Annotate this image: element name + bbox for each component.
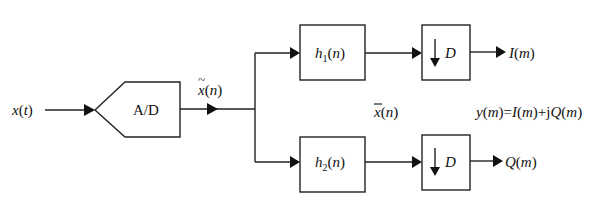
q-output-label: Q(m) <box>505 154 537 171</box>
i-output-arrow-icon <box>496 46 506 58</box>
sampled-arrow-icon <box>207 103 218 115</box>
d1-input-arrow-icon <box>412 47 422 59</box>
i-output-label: I(m) <box>508 45 535 62</box>
filtered-signal-label: x(n) <box>373 104 398 121</box>
decimator-1-factor: D <box>444 45 456 61</box>
h1-input-arrow-icon <box>290 47 300 59</box>
tilde-accent: ~ <box>198 72 205 87</box>
q-output-arrow-icon <box>493 155 503 167</box>
output-equation: y(m)=I(m)+jQ(m) <box>474 104 582 121</box>
block-diagram: x(t) A/D x(n) ~ h1(n) h2(n) D D I(m) Q(m… <box>0 0 613 202</box>
input-signal-label: x(t) <box>11 102 33 119</box>
h2-input-arrow-icon <box>290 156 300 168</box>
input-arrow-icon <box>84 104 95 116</box>
decimator-2-factor: D <box>444 154 456 170</box>
d2-input-arrow-icon <box>412 156 422 168</box>
adc-label: A/D <box>133 102 159 118</box>
